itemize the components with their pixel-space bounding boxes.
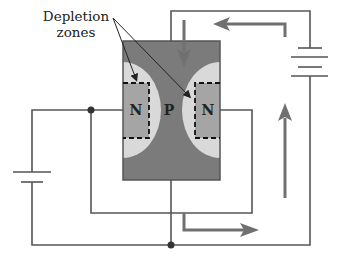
n-label-left: N [130,102,143,118]
n-label-right: N [202,102,215,118]
junction-dot-left [88,107,95,114]
depletion-label-line1: Depletion [43,8,110,24]
depletion-label-line2: zones [57,24,96,40]
battery-right [291,48,328,76]
battery-left [13,172,51,182]
arrow-top-left [226,24,285,37]
junction-dot-bottom [168,242,175,249]
p-label: P [164,102,175,118]
arrow-bottom-right [184,213,244,230]
jfet-circuit-diagram: N P N Depletion zones [0,0,337,258]
